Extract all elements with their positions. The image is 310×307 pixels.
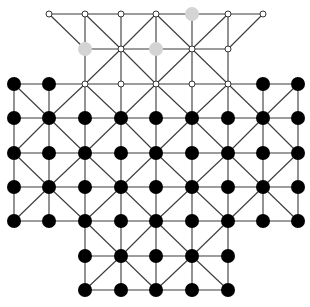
black-piece[interactable] bbox=[114, 180, 128, 194]
board-line bbox=[263, 118, 298, 153]
black-piece[interactable] bbox=[256, 111, 270, 125]
black-piece[interactable] bbox=[7, 180, 21, 194]
black-piece[interactable] bbox=[149, 111, 163, 125]
board-line bbox=[85, 187, 121, 221]
black-piece[interactable] bbox=[185, 214, 199, 228]
black-piece[interactable] bbox=[42, 111, 56, 125]
board-line bbox=[156, 84, 192, 118]
board-line bbox=[156, 256, 192, 290]
black-piece[interactable] bbox=[291, 111, 305, 125]
board-line bbox=[121, 49, 156, 84]
black-piece[interactable] bbox=[7, 214, 21, 228]
black-piece[interactable] bbox=[185, 180, 199, 194]
game-board bbox=[0, 0, 310, 307]
black-piece[interactable] bbox=[78, 180, 92, 194]
black-piece[interactable] bbox=[149, 283, 163, 297]
black-piece[interactable] bbox=[185, 111, 199, 125]
empty-point[interactable] bbox=[118, 11, 124, 17]
empty-point[interactable] bbox=[225, 46, 231, 52]
black-piece[interactable] bbox=[149, 214, 163, 228]
board-line bbox=[192, 187, 228, 221]
board-line bbox=[14, 84, 49, 118]
black-piece[interactable] bbox=[42, 214, 56, 228]
board-line bbox=[228, 187, 263, 221]
black-piece[interactable] bbox=[42, 77, 56, 91]
empty-point[interactable] bbox=[225, 81, 231, 87]
black-piece[interactable] bbox=[78, 249, 92, 263]
empty-point[interactable] bbox=[153, 81, 159, 87]
empty-point[interactable] bbox=[189, 81, 195, 87]
black-piece[interactable] bbox=[114, 214, 128, 228]
board-line bbox=[85, 221, 121, 256]
black-piece[interactable] bbox=[221, 249, 235, 263]
empty-point[interactable] bbox=[82, 11, 88, 17]
black-piece[interactable] bbox=[114, 111, 128, 125]
board-line bbox=[14, 153, 49, 187]
black-piece[interactable] bbox=[78, 214, 92, 228]
board-line bbox=[49, 118, 85, 153]
board-line bbox=[156, 187, 192, 221]
black-piece[interactable] bbox=[291, 146, 305, 160]
black-piece[interactable] bbox=[221, 214, 235, 228]
board-line bbox=[121, 153, 156, 187]
board-line bbox=[263, 84, 298, 118]
empty-point[interactable] bbox=[82, 81, 88, 87]
empty-point[interactable] bbox=[225, 11, 231, 17]
empty-point[interactable] bbox=[189, 46, 195, 52]
black-piece[interactable] bbox=[149, 180, 163, 194]
black-piece[interactable] bbox=[221, 180, 235, 194]
black-piece[interactable] bbox=[7, 111, 21, 125]
black-piece[interactable] bbox=[42, 146, 56, 160]
black-piece[interactable] bbox=[291, 214, 305, 228]
black-piece[interactable] bbox=[7, 146, 21, 160]
black-piece[interactable] bbox=[78, 283, 92, 297]
board-line bbox=[156, 153, 192, 187]
black-piece[interactable] bbox=[114, 249, 128, 263]
board-line bbox=[49, 153, 85, 187]
black-piece[interactable] bbox=[78, 146, 92, 160]
empty-point[interactable] bbox=[260, 11, 266, 17]
black-piece[interactable] bbox=[185, 283, 199, 297]
black-piece[interactable] bbox=[221, 146, 235, 160]
board-line bbox=[228, 84, 263, 118]
black-piece[interactable] bbox=[256, 180, 270, 194]
grey-piece[interactable] bbox=[185, 7, 199, 21]
board-line bbox=[192, 14, 228, 49]
black-piece[interactable] bbox=[149, 249, 163, 263]
black-piece[interactable] bbox=[291, 77, 305, 91]
black-piece[interactable] bbox=[256, 77, 270, 91]
board-line bbox=[49, 84, 85, 118]
empty-point[interactable] bbox=[153, 11, 159, 17]
empty-point[interactable] bbox=[118, 46, 124, 52]
grey-piece[interactable] bbox=[78, 42, 92, 56]
black-piece[interactable] bbox=[291, 180, 305, 194]
board-points bbox=[7, 7, 305, 297]
board-line bbox=[228, 153, 263, 187]
board-line bbox=[85, 153, 121, 187]
grey-piece[interactable] bbox=[149, 42, 163, 56]
black-piece[interactable] bbox=[7, 77, 21, 91]
black-piece[interactable] bbox=[114, 283, 128, 297]
board-line bbox=[228, 118, 263, 153]
board-line bbox=[192, 84, 228, 118]
black-piece[interactable] bbox=[185, 146, 199, 160]
board-line bbox=[85, 14, 121, 49]
board-line bbox=[156, 49, 192, 84]
board-line bbox=[14, 187, 49, 221]
black-piece[interactable] bbox=[78, 111, 92, 125]
black-piece[interactable] bbox=[256, 214, 270, 228]
board-line bbox=[121, 187, 156, 221]
empty-point[interactable] bbox=[46, 11, 52, 17]
black-piece[interactable] bbox=[185, 249, 199, 263]
black-piece[interactable] bbox=[42, 180, 56, 194]
black-piece[interactable] bbox=[256, 146, 270, 160]
board-line bbox=[156, 14, 192, 49]
black-piece[interactable] bbox=[149, 146, 163, 160]
empty-point[interactable] bbox=[118, 81, 124, 87]
black-piece[interactable] bbox=[221, 111, 235, 125]
black-piece[interactable] bbox=[221, 283, 235, 297]
black-piece[interactable] bbox=[114, 146, 128, 160]
board-line bbox=[228, 14, 263, 49]
board-line bbox=[121, 221, 156, 256]
board-line bbox=[85, 256, 121, 290]
